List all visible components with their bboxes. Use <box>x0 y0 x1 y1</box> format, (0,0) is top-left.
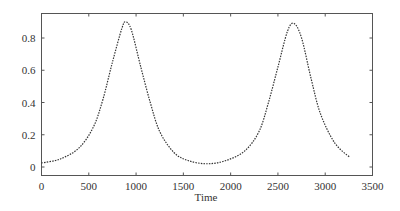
x-axis: 0500100015002000250030003500 <box>39 14 384 193</box>
x-tick-label: 0 <box>39 180 45 192</box>
plot-frame <box>42 14 373 176</box>
y-tick-label: 0.6 <box>22 64 36 76</box>
y-tick-label: 0 <box>30 161 36 173</box>
y-tick-label: 0.2 <box>22 129 36 141</box>
x-tick-label: 3000 <box>314 180 337 192</box>
x-tick-label: 2500 <box>267 180 290 192</box>
x-tick-label: 3500 <box>362 180 385 192</box>
x-axis-title: Time <box>195 191 218 203</box>
line-chart: 0500100015002000250030003500 00.20.40.60… <box>0 0 400 211</box>
x-tick-label: 500 <box>81 180 98 192</box>
y-tick-label: 0.8 <box>22 32 36 44</box>
y-tick-label: 0.4 <box>22 97 36 109</box>
x-tick-label: 1500 <box>172 180 195 192</box>
series-line <box>42 22 350 164</box>
x-tick-label: 1000 <box>125 180 148 192</box>
x-tick-label: 2000 <box>220 180 243 192</box>
y-axis: 00.20.40.60.8 <box>22 32 373 173</box>
